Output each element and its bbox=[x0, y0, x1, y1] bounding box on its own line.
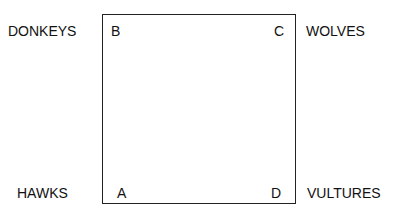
label-hawks: HAWKS bbox=[17, 185, 68, 201]
label-wolves: WOLVES bbox=[306, 23, 365, 39]
corner-letter-b: B bbox=[111, 23, 120, 39]
label-vultures: VULTURES bbox=[307, 185, 381, 201]
corner-letter-d: D bbox=[271, 185, 281, 201]
label-donkeys: DONKEYS bbox=[8, 23, 76, 39]
corner-letter-c: C bbox=[274, 23, 284, 39]
corner-letter-a: A bbox=[117, 185, 126, 201]
square-outline bbox=[102, 14, 296, 204]
